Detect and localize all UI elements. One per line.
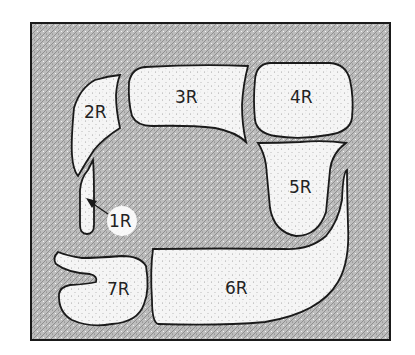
label-6R: 6R bbox=[225, 278, 248, 298]
label-2R: 2R bbox=[84, 102, 107, 122]
region-diagram: 2R 3R 4R 5R 6R 7R 1R bbox=[0, 0, 415, 355]
label-4R: 4R bbox=[290, 87, 313, 107]
label-5R: 5R bbox=[289, 177, 312, 197]
label-3R: 3R bbox=[175, 87, 198, 107]
region-7R: 7R bbox=[54, 252, 147, 325]
label-7R: 7R bbox=[107, 279, 130, 299]
region-4R: 4R bbox=[254, 63, 353, 138]
label-1R: 1R bbox=[109, 211, 132, 231]
